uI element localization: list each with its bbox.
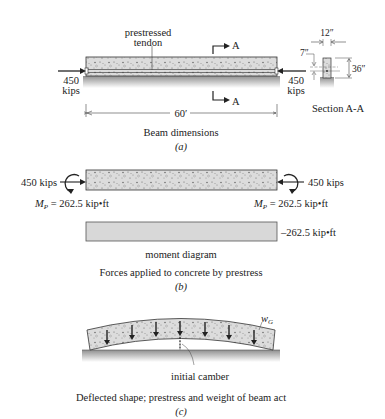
panel-b-tag: (b) <box>175 281 188 293</box>
panel-b: 450 kips MP = 262.5 kip•ft 450 kips MP =… <box>21 170 344 293</box>
section-title: Section A-A <box>312 103 365 114</box>
section-width: 12″ <box>320 28 334 38</box>
camber-label: initial camber <box>171 371 230 382</box>
panel-c: wG initial camber Deflected shape; prest… <box>76 313 286 418</box>
section-cut-label-bottom: A <box>232 96 240 107</box>
cross-section <box>323 58 331 78</box>
moment-diagram-value: –262.5 kip•ft <box>280 227 336 238</box>
moment-diagram-label: moment diagram <box>145 249 216 260</box>
left-force-moment-symbol <box>60 175 86 194</box>
tendon-label-line2: tendon <box>134 37 163 48</box>
right-force-unit: kips <box>287 85 305 96</box>
ground-support <box>83 76 280 88</box>
prestressed-beam-figure: prestressed tendon A A 450 kips 450 kips <box>0 0 385 419</box>
panel-c-caption: Deflected shape; prestress and weight of… <box>76 392 286 403</box>
section-cut-marker-top: A <box>213 40 240 54</box>
right-prestress-force-arrow <box>277 68 306 74</box>
load-label: wG <box>261 313 273 326</box>
beam-free-body <box>86 170 277 190</box>
panel-a-caption: Beam dimensions <box>144 127 219 138</box>
ground-support <box>82 350 280 362</box>
span-length: 60′ <box>175 108 188 119</box>
panel-c-tag: (c) <box>175 406 187 418</box>
section-cut-marker-bottom: A <box>213 91 240 107</box>
beam-elevation <box>86 57 277 76</box>
right-force-moment-symbol <box>277 175 304 194</box>
right-force-label: 450 kips <box>308 177 344 188</box>
moment-diagram <box>86 222 277 241</box>
left-force-label: 450 kips <box>21 177 57 188</box>
section-depth: 36″ <box>352 64 366 74</box>
section-cut-label-top: A <box>232 40 240 51</box>
panel-b-caption: Forces applied to concrete by prestress <box>100 267 263 278</box>
right-moment-label: MP = 262.5 kip•ft <box>253 198 328 211</box>
panel-a: prestressed tendon A A 450 kips 450 kips <box>58 27 366 153</box>
left-force-unit: kips <box>62 85 80 96</box>
tendon-eccentricity: 7″ <box>300 48 309 58</box>
left-prestress-force-arrow <box>58 68 86 74</box>
panel-a-tag: (a) <box>175 141 188 153</box>
section-a-a: 12″ 36″ 7″ Section A-A <box>300 28 366 114</box>
left-moment-label: MP = 262.5 kip•ft <box>34 198 109 211</box>
